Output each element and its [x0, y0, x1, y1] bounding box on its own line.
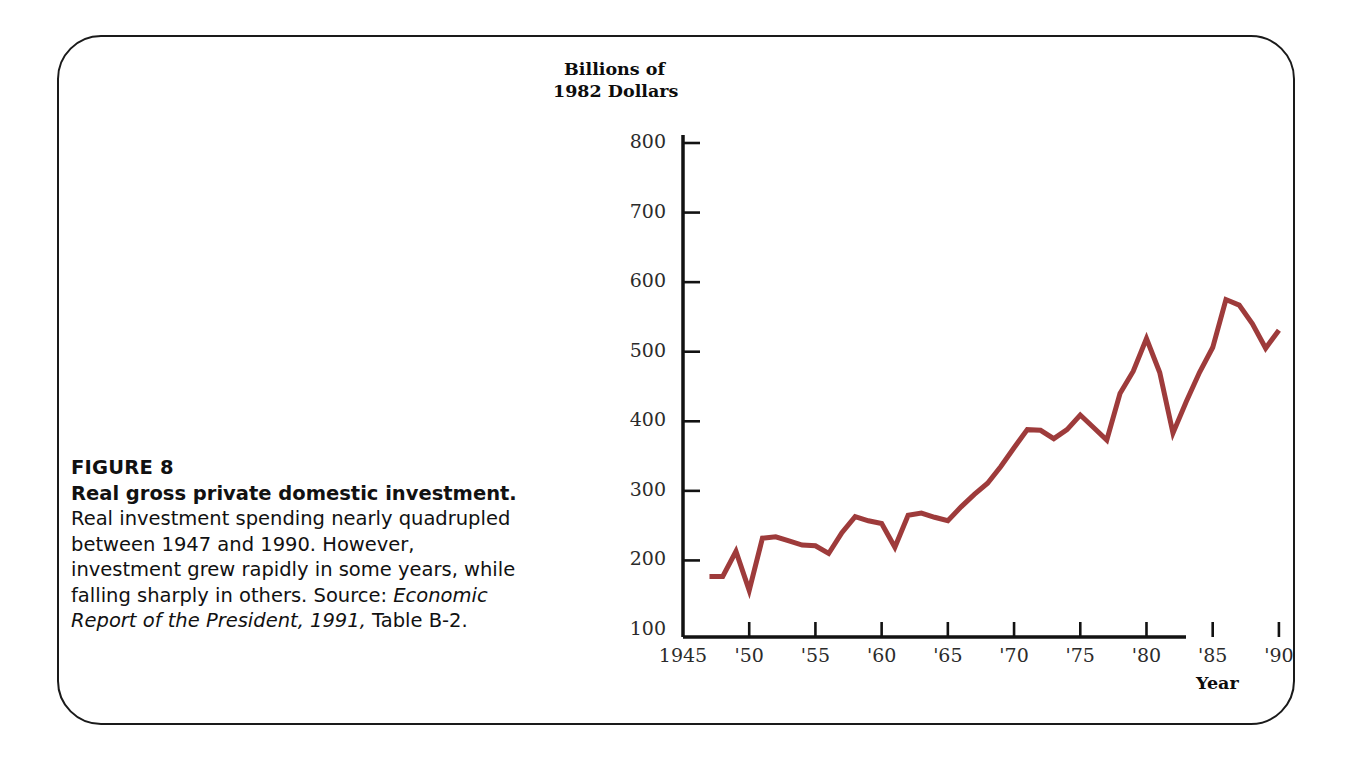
- x-axis-tick-label: '90: [1239, 644, 1319, 666]
- figure-title: Real gross private domestic investment.: [71, 482, 517, 505]
- y-axis-tick-label: 400: [610, 408, 666, 430]
- figure-caption: FIGURE 8 Real gross private domestic inv…: [71, 455, 523, 634]
- y-axis-title-line1: Billions of: [564, 59, 665, 79]
- y-axis-tick-label: 200: [610, 547, 666, 569]
- x-axis-title: Year: [1196, 672, 1256, 694]
- source-table: Table B-2.: [372, 609, 468, 632]
- source-label: Source:: [314, 584, 388, 607]
- y-axis-tick-label: 100: [610, 617, 666, 639]
- y-axis-tick-label: 500: [610, 339, 666, 361]
- y-axis-tick-label: 600: [610, 269, 666, 291]
- y-axis-title: Billions of1982 Dollars: [553, 58, 665, 102]
- y-axis-tick-label: 700: [610, 200, 666, 222]
- y-axis-title-line2: 1982 Dollars: [553, 81, 678, 101]
- y-axis-tick-label: 300: [610, 478, 666, 500]
- y-axis-tick-label: 800: [610, 130, 666, 152]
- figure-number: FIGURE 8: [71, 455, 523, 481]
